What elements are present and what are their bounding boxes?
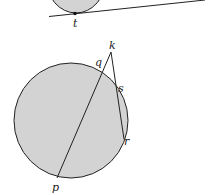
tangent-point-t [73,12,77,16]
label-s: s [118,82,124,95]
label-q: q [95,56,102,69]
lower-circle [14,63,128,178]
bottom-diagram: k q s r p [14,39,130,194]
geometry-figure: t k q s r p [0,0,213,195]
label-r: r [124,135,130,148]
label-k: k [109,39,116,52]
label-p: p [52,181,59,194]
label-t: t [73,17,78,30]
top-diagram: t [46,0,205,30]
